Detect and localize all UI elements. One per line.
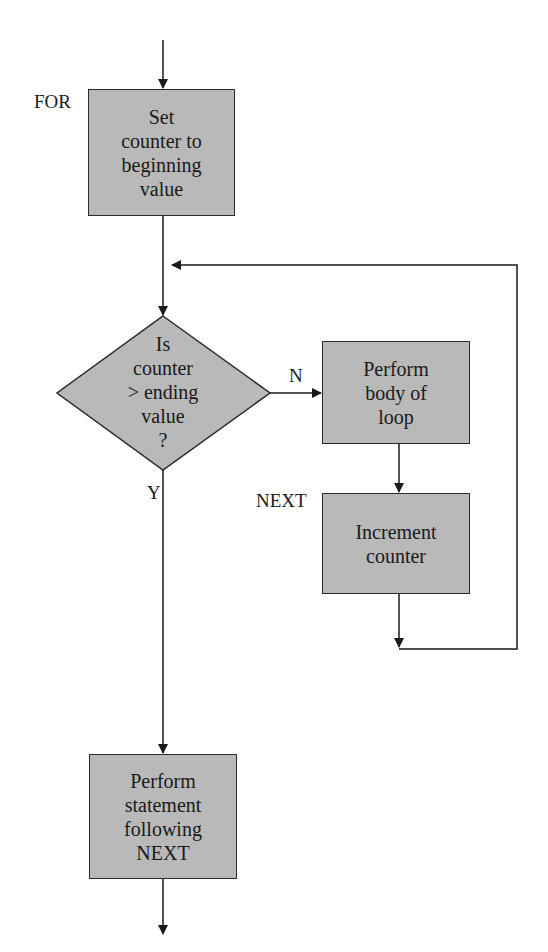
after-loop-process-box: Perform statement following NEXT	[89, 754, 237, 879]
no-label: N	[289, 366, 303, 386]
after-line-4: NEXT	[124, 841, 202, 865]
body-process-box: Perform body of loop	[322, 341, 470, 444]
increment-process-box: Increment counter	[322, 493, 470, 594]
decision-line-3: > ending	[93, 380, 233, 404]
init-process-box: Set counter to beginning value	[88, 89, 235, 216]
after-line-1: Perform	[124, 769, 202, 793]
next-label: NEXT	[256, 491, 307, 511]
decision-line-2: counter	[93, 356, 233, 380]
increment-line-1: Increment	[355, 520, 436, 544]
init-line-3: beginning	[121, 153, 202, 177]
connector-lines	[0, 0, 548, 952]
increment-line-2: counter	[355, 544, 436, 568]
body-line-2: body of	[363, 381, 429, 405]
after-line-2: statement	[124, 793, 202, 817]
init-line-1: Set	[121, 105, 202, 129]
yes-label: Y	[147, 483, 161, 503]
decision-text: Is counter > ending value ?	[93, 332, 233, 452]
body-line-3: loop	[363, 405, 429, 429]
init-line-4: value	[121, 177, 202, 201]
after-line-3: following	[124, 817, 202, 841]
decision-line-1: Is	[93, 332, 233, 356]
for-label: FOR	[34, 92, 71, 112]
body-line-1: Perform	[363, 357, 429, 381]
decision-line-4: value	[93, 404, 233, 428]
init-line-2: counter to	[121, 129, 202, 153]
decision-line-5: ?	[93, 428, 233, 452]
